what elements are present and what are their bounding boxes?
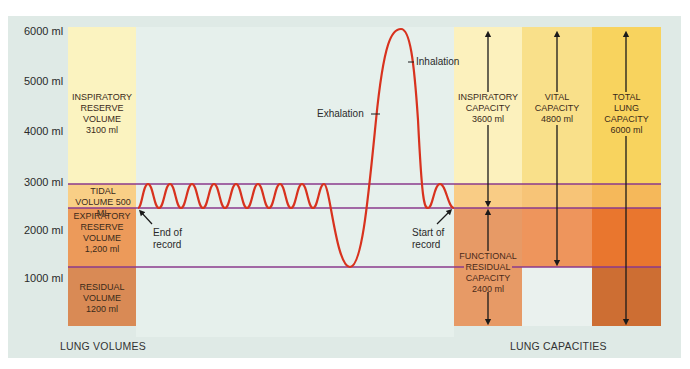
vc-label: VITAL CAPACITY 4800 ml <box>522 92 592 125</box>
irv-label-line2: RESERVE <box>68 103 136 114</box>
ic-label-line1: INSPIRATORY <box>454 92 522 103</box>
irv-label-line1: INSPIRATORY <box>68 92 136 103</box>
erv-label-line2: RESERVE <box>68 222 136 233</box>
vc-value: 4800 ml <box>522 114 592 125</box>
end-of-record-line1: End of <box>153 227 182 239</box>
ic-label-line2: CAPACITY <box>454 103 522 114</box>
tlc-label-line2: LUNG <box>592 103 661 114</box>
erv-label-line3: VOLUME <box>68 233 136 244</box>
tlc-value: 6000 ml <box>592 125 661 136</box>
vc-label-line2: CAPACITY <box>522 103 592 114</box>
start-of-record-label: Start of record <box>412 227 444 251</box>
start-of-record-line1: Start of <box>412 227 444 239</box>
tv-label-line1: TIDAL <box>68 186 138 197</box>
end-of-record-arrow <box>141 212 152 224</box>
frc-label-line3: CAPACITY <box>454 273 522 284</box>
start-of-record-arrow <box>437 211 450 224</box>
vc-label-line1: VITAL <box>522 92 592 103</box>
erv-label-line1: EXPIRATORY <box>68 211 136 222</box>
rv-label-line2: VOLUME <box>68 293 136 304</box>
breathing-trace <box>138 29 454 267</box>
frc-label-line2: RESIDUAL <box>464 262 512 273</box>
irv-label-line3: VOLUME <box>68 114 136 125</box>
frc-label-line1: FUNCTIONAL <box>454 251 522 262</box>
tlc-label-line3: CAPACITY <box>592 114 661 125</box>
exhalation-label: Exhalation <box>317 108 364 120</box>
lung-volumes-heading: LUNG VOLUMES <box>60 340 146 352</box>
inhalation-label: Inhalation <box>416 56 459 68</box>
tlc-label-line1: TOTAL <box>592 92 661 103</box>
irv-label: INSPIRATORY RESERVE VOLUME 3100 ml <box>68 92 136 136</box>
frc-label: FUNCTIONAL RESIDUAL CAPACITY 2400 ml <box>454 251 522 295</box>
end-of-record-line2: record <box>153 239 182 251</box>
rv-label: RESIDUAL VOLUME 1200 ml <box>68 282 136 315</box>
erv-value: 1,200 ml <box>68 244 136 255</box>
tlc-label: TOTAL LUNG CAPACITY 6000 ml <box>592 92 661 136</box>
frc-value: 2400 ml <box>454 284 522 295</box>
ic-value: 3600 ml <box>454 114 522 125</box>
ic-label: INSPIRATORY CAPACITY 3600 ml <box>454 92 522 125</box>
start-of-record-line2: record <box>412 239 444 251</box>
rv-value: 1200 ml <box>68 304 136 315</box>
end-of-record-label: End of record <box>153 227 182 251</box>
lung-capacities-heading: LUNG CAPACITIES <box>510 340 607 352</box>
irv-value: 3100 ml <box>68 125 136 136</box>
rv-label-line1: RESIDUAL <box>68 282 136 293</box>
erv-label: EXPIRATORY RESERVE VOLUME 1,200 ml <box>68 211 136 255</box>
